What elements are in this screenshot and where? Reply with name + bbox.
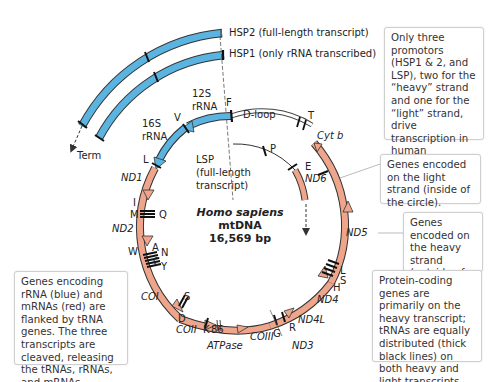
lsp-label-line2: (full-length bbox=[196, 167, 251, 178]
svg-text:A: A bbox=[152, 242, 159, 253]
coi-label: COI bbox=[141, 291, 159, 302]
svg-text:N: N bbox=[161, 247, 168, 258]
light-strand-connector bbox=[340, 163, 383, 178]
nd5-label: ND5 bbox=[346, 227, 368, 238]
flanking-callout: Genes encoding rRNA (blue) and mRNAs (re… bbox=[14, 271, 128, 365]
term-dashed-arrow bbox=[72, 126, 82, 149]
cytb-label: Cyt b bbox=[317, 130, 343, 141]
svg-text:L: L bbox=[143, 154, 149, 165]
light-strand-callout: Genes encoded on the light strand (insid… bbox=[380, 154, 481, 204]
svg-text:R: R bbox=[289, 322, 296, 333]
svg-text:M: M bbox=[130, 209, 139, 220]
nd3-label: ND3 bbox=[292, 340, 314, 351]
nd1-label: ND1 bbox=[121, 172, 143, 183]
hsp1-label: HSP1 (only rRNA transcribed) bbox=[229, 48, 376, 59]
dloop-label: D-loop bbox=[243, 109, 276, 120]
coiii-label: COIII bbox=[250, 331, 274, 342]
svg-text:P: P bbox=[270, 143, 276, 154]
hsp2-label: HSP2 (full-length transcript) bbox=[229, 27, 369, 38]
lsp-label: LSP bbox=[196, 154, 214, 165]
svg-text:Y: Y bbox=[160, 261, 168, 272]
16s-rrna-label-line2: rRNA bbox=[142, 131, 168, 142]
term-label: Term bbox=[76, 150, 101, 161]
12s-rrna-label: 12S bbox=[192, 88, 211, 99]
nd4l-label: ND4L bbox=[298, 314, 325, 325]
svg-text:L: L bbox=[340, 265, 346, 276]
heavy-strand-callout: Genes encoded on the heavy strand (outsi… bbox=[403, 212, 483, 272]
svg-text:E: E bbox=[305, 161, 311, 172]
svg-text:Q: Q bbox=[159, 209, 167, 220]
nd4-label: ND4 bbox=[317, 294, 339, 305]
svg-text:T: T bbox=[307, 110, 315, 121]
protein-coding-callout: Protein-coding genes are primarily on th… bbox=[372, 270, 482, 362]
svg-text:W: W bbox=[128, 246, 138, 257]
svg-text:C: C bbox=[153, 256, 160, 267]
genome-size-label: 16,569 bp bbox=[209, 232, 271, 245]
svg-text:I: I bbox=[133, 197, 136, 208]
svg-text:F: F bbox=[226, 97, 232, 108]
12s-rrna-label-line2: rRNA bbox=[192, 101, 218, 112]
svg-text:G: G bbox=[273, 328, 281, 339]
molecule-label: mtDNA bbox=[218, 219, 262, 232]
atpase-numbers-label: 86 bbox=[211, 324, 224, 335]
svg-text:S: S bbox=[184, 291, 190, 302]
svg-text:S: S bbox=[340, 275, 346, 286]
svg-text:D: D bbox=[178, 313, 186, 324]
atpase-label: ATPase bbox=[206, 340, 243, 351]
nd6-label: ND6 bbox=[305, 173, 327, 184]
coii-label: COII bbox=[176, 324, 197, 335]
16s-rrna-label: 16S bbox=[142, 118, 161, 129]
lsp-label-line3: transcript) bbox=[196, 180, 248, 191]
svg-text:K: K bbox=[203, 324, 210, 335]
svg-text:V: V bbox=[174, 112, 181, 123]
nd2-label: ND2 bbox=[112, 223, 134, 234]
species-label: Homo sapiens bbox=[196, 206, 284, 219]
promoters-callout: Only three promotors (HSP1 & 2, and LSP)… bbox=[384, 27, 484, 140]
